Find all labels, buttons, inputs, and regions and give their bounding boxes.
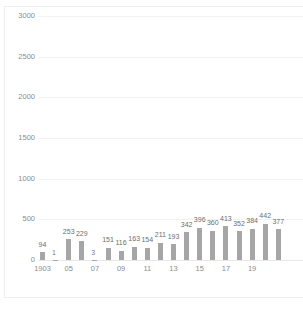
bar-1917[interactable] xyxy=(223,226,228,260)
gridline-2000 xyxy=(38,97,303,98)
value-axis-zero-line xyxy=(38,260,303,261)
y-tick-500: 500 xyxy=(1,215,35,223)
y-tick-1000: 1000 xyxy=(1,175,35,183)
x-tick-15: 15 xyxy=(193,264,207,273)
bar-1907[interactable] xyxy=(92,260,97,261)
bar-1918[interactable] xyxy=(237,231,242,260)
bar-1908[interactable] xyxy=(106,248,111,260)
chart-plot-area: 3000 2500 2000 1500 1000 500 0 94 1 253 … xyxy=(0,0,303,314)
bar-label-1903: 94 xyxy=(33,241,53,249)
bar-1919[interactable] xyxy=(250,229,255,260)
bar-label-1913: 193 xyxy=(164,233,184,241)
bar-label-1906: 229 xyxy=(72,230,92,238)
x-tick-11: 11 xyxy=(140,264,154,273)
bar-label-1921: 377 xyxy=(268,218,288,226)
x-tick-19: 19 xyxy=(245,264,259,273)
x-tick-13: 13 xyxy=(167,264,181,273)
bar-1921[interactable] xyxy=(276,229,281,260)
x-tick-05: 05 xyxy=(62,264,76,273)
bar-1910[interactable] xyxy=(132,247,137,260)
x-tick-07: 07 xyxy=(88,264,102,273)
bar-1904[interactable] xyxy=(53,260,58,261)
y-tick-2500: 2500 xyxy=(1,53,35,61)
bar-label-1907: 3 xyxy=(91,249,98,257)
y-tick-0: 0 xyxy=(1,256,35,264)
y-tick-3000: 3000 xyxy=(1,12,35,20)
gridline-3000 xyxy=(38,16,303,17)
bar-1916[interactable] xyxy=(210,231,215,260)
bar-1905[interactable] xyxy=(66,239,71,260)
x-tick-1903: 1903 xyxy=(32,264,54,273)
bar-1920[interactable] xyxy=(263,224,268,260)
bar-1911[interactable] xyxy=(145,248,150,261)
bar-1906[interactable] xyxy=(79,241,84,260)
bar-1913[interactable] xyxy=(171,244,176,260)
x-tick-09: 09 xyxy=(114,264,128,273)
bar-1912[interactable] xyxy=(158,243,163,260)
y-tick-1500: 1500 xyxy=(1,134,35,142)
y-tick-2000: 2000 xyxy=(1,93,35,101)
x-tick-17: 17 xyxy=(219,264,233,273)
bar-1914[interactable] xyxy=(184,232,189,260)
bar-1903[interactable] xyxy=(40,252,45,260)
bar-chart: 3000 2500 2000 1500 1000 500 0 94 1 253 … xyxy=(0,0,303,314)
bar-1909[interactable] xyxy=(119,251,124,260)
gridline-1500 xyxy=(38,138,303,139)
bar-1915[interactable] xyxy=(197,228,202,260)
bar-label-1904: 1 xyxy=(52,249,59,257)
gridline-1000 xyxy=(38,179,303,180)
gridline-2500 xyxy=(38,57,303,58)
